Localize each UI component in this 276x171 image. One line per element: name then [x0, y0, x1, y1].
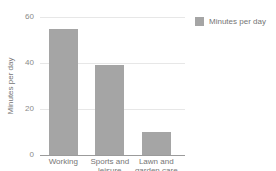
- bar: [142, 132, 171, 155]
- y-tick-label: 0: [18, 150, 34, 160]
- gridline: [40, 17, 185, 18]
- legend-label: Minutes per day: [209, 17, 266, 26]
- legend-swatch: [195, 17, 204, 26]
- y-tick-label: 60: [18, 12, 34, 22]
- plot-area: [40, 17, 185, 156]
- legend: Minutes per day: [195, 17, 266, 26]
- y-axis-title: Minutes per day: [6, 58, 15, 115]
- x-category-label: Lawn and garden care: [131, 158, 181, 171]
- bar: [95, 65, 124, 155]
- bar: [49, 29, 78, 156]
- y-tick-label: 20: [18, 104, 34, 114]
- x-category-label: Sports and leisure: [85, 158, 135, 171]
- x-category-label: Working: [38, 158, 88, 167]
- bar-chart: Minutes per day 0204060 WorkingSports an…: [0, 0, 276, 171]
- y-tick-label: 40: [18, 58, 34, 68]
